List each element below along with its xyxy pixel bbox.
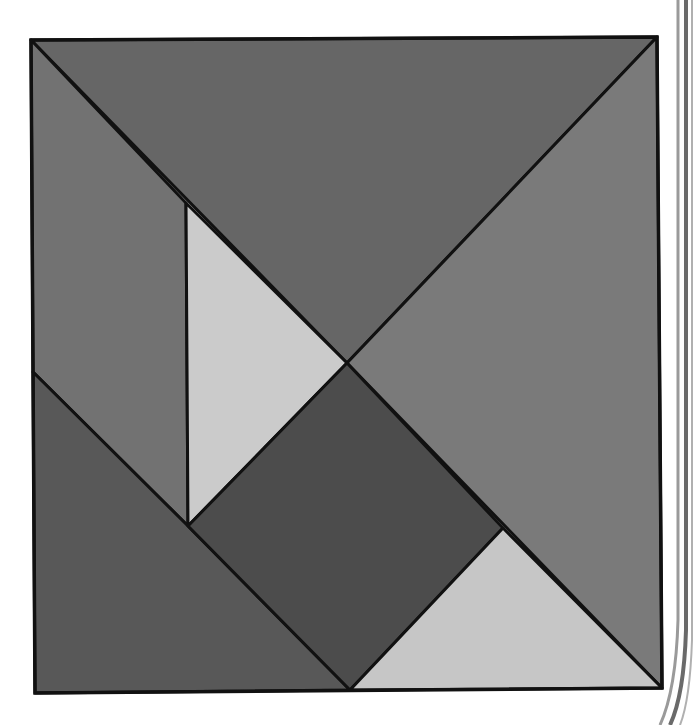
tangram-diagram xyxy=(0,0,697,725)
page-binding-edge xyxy=(660,0,692,725)
